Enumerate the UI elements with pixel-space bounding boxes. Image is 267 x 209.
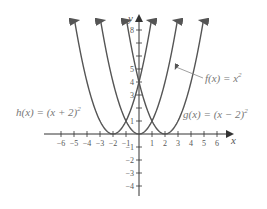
y-tick-label: −3: [125, 169, 134, 178]
y-tick-label: 4: [130, 78, 134, 87]
y-tick-label: 1: [130, 117, 134, 126]
x-tick-label: 1: [150, 139, 154, 148]
axes: −6−5−4−3−2−1123456 −4−3−2−113458 x y: [44, 12, 236, 196]
y-tick-label: 8: [130, 26, 134, 35]
curve-(x+2)^2: [75, 21, 152, 134]
x-axis-label: x: [230, 134, 236, 146]
x-tick-label: 3: [176, 139, 180, 148]
x-tick-label: −5: [70, 139, 79, 148]
x-tick-label: 2: [163, 139, 167, 148]
y-tick-label: 3: [130, 91, 134, 100]
x-tick-label: −2: [109, 139, 118, 148]
f-label-pointer: [176, 67, 203, 78]
x-tick-label: 4: [189, 139, 193, 148]
x-tick-label: −4: [83, 139, 92, 148]
y-ticks: −4−3−2−113458: [125, 26, 142, 191]
h-label: h(x) = (x + 2)2: [16, 105, 81, 119]
x-tick-label: −6: [57, 139, 66, 148]
x-tick-label: 5: [202, 139, 206, 148]
y-axis-label: y: [127, 12, 133, 24]
y-tick-label: −4: [125, 182, 134, 191]
x-tick-label: −3: [96, 139, 105, 148]
graph-canvas: −6−5−4−3−2−1123456 −4−3−2−113458 x y f(x…: [0, 0, 267, 209]
x-tick-label: 6: [215, 139, 219, 148]
f-label: f(x) = x2: [205, 71, 242, 85]
y-tick-label: −1: [125, 143, 134, 152]
y-tick-label: −2: [125, 156, 134, 165]
y-tick-label: 5: [130, 65, 134, 74]
g-label: g(x) = (x − 2)2: [183, 107, 248, 121]
